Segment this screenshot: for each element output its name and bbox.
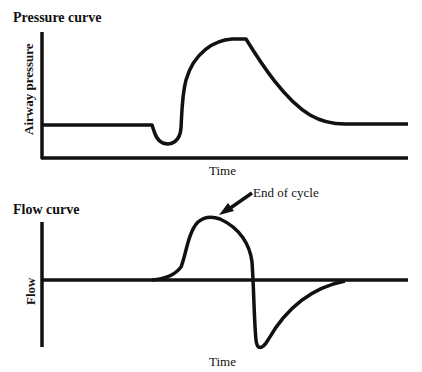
end-of-cycle-arrow	[229, 193, 252, 209]
pressure-curve	[42, 39, 408, 144]
waveform-diagram	[0, 0, 422, 372]
flow-curve	[152, 217, 345, 347]
arrowhead-icon	[219, 203, 234, 215]
